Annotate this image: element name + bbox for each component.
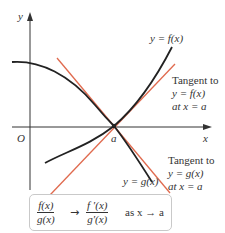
rhs-fraction: f ′(x) g′(x) bbox=[86, 199, 108, 226]
point-a-label: a bbox=[111, 132, 117, 144]
x-axis-arrow-icon bbox=[203, 124, 212, 130]
curve-f bbox=[45, 47, 172, 163]
lhs-denominator: g(x) bbox=[37, 213, 55, 226]
rhs-numerator: f ′(x) bbox=[86, 199, 108, 213]
curve-g bbox=[12, 62, 152, 182]
y-axis-label: y bbox=[18, 10, 23, 22]
y-axis-arrow-icon bbox=[27, 12, 33, 21]
g-curve-label: y = g(x) bbox=[123, 175, 159, 187]
arrow-icon: → bbox=[70, 206, 79, 219]
formula-condition: as x → a bbox=[125, 206, 164, 218]
tangent-g-line3: at x = a bbox=[168, 180, 203, 192]
intersection-point bbox=[112, 124, 116, 128]
origin-label: O bbox=[17, 132, 25, 144]
lhs-fraction: f(x) g(x) bbox=[37, 199, 55, 226]
tangent-f-line3: at x = a bbox=[172, 100, 207, 112]
tangent-f-line2: y = f(x) bbox=[172, 87, 205, 99]
tangent-f-line1: Tangent to bbox=[172, 74, 219, 86]
tangent-g-line1: Tangent to bbox=[168, 154, 215, 166]
tangent-g-line2: y = g(x) bbox=[168, 167, 204, 179]
f-curve-label: y = f(x) bbox=[150, 32, 183, 44]
lhopital-formula-box: f(x) g(x) → f ′(x) g′(x) as x → a bbox=[29, 194, 172, 231]
x-axis-label: x bbox=[203, 132, 208, 144]
rhs-denominator: g′(x) bbox=[87, 213, 107, 226]
lhs-numerator: f(x) bbox=[37, 199, 54, 213]
